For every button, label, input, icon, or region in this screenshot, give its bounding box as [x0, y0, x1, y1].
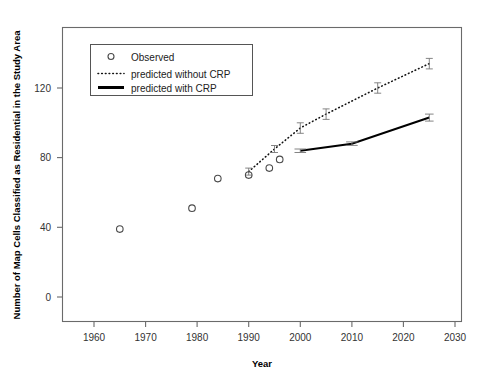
- x-tick-label: 1970: [134, 332, 157, 343]
- chart-figure: 1960 1970 1980 1990 2000 2010 2020 2030 …: [0, 0, 483, 383]
- solid-prediction-line: [300, 118, 429, 151]
- y-tick-labels: 0 40 80 120: [34, 83, 51, 303]
- series-predicted-without-crp: [245, 58, 433, 175]
- dotted-prediction-line: [249, 64, 430, 172]
- observed-point: [117, 226, 124, 233]
- x-tick-label: 2000: [289, 332, 312, 343]
- x-tick-label: 2030: [444, 332, 467, 343]
- x-tickmarks: [94, 322, 455, 328]
- y-tick-label: 80: [40, 152, 52, 163]
- observed-point: [276, 156, 283, 163]
- x-axis-title: Year: [252, 358, 272, 369]
- observed-point: [215, 175, 222, 182]
- x-tick-label: 2020: [392, 332, 415, 343]
- observed-point: [189, 205, 196, 212]
- x-tick-labels: 1960 1970 1980 1990 2000 2010 2020 2030: [83, 332, 467, 343]
- y-axis-title: Number of Map Cells Classified as Reside…: [11, 30, 22, 320]
- observed-point: [266, 165, 273, 172]
- x-tick-label: 1980: [186, 332, 209, 343]
- y-tick-label: 40: [40, 222, 52, 233]
- chart-legend: Observed predicted without CRP predicted…: [91, 45, 253, 96]
- legend-label-predicted-without-crp: predicted without CRP: [131, 69, 231, 80]
- legend-label-observed: Observed: [131, 52, 174, 63]
- x-tick-label: 1990: [238, 332, 261, 343]
- y-tickmarks: [57, 88, 63, 297]
- series-observed: [117, 156, 284, 232]
- error-bars-without-crp: [245, 58, 433, 175]
- x-tick-label: 1960: [83, 332, 106, 343]
- x-tick-label: 2010: [341, 332, 364, 343]
- y-tick-label: 120: [34, 83, 51, 94]
- y-tick-label: 0: [45, 292, 51, 303]
- legend-label-predicted-with-crp: predicted with CRP: [131, 83, 217, 94]
